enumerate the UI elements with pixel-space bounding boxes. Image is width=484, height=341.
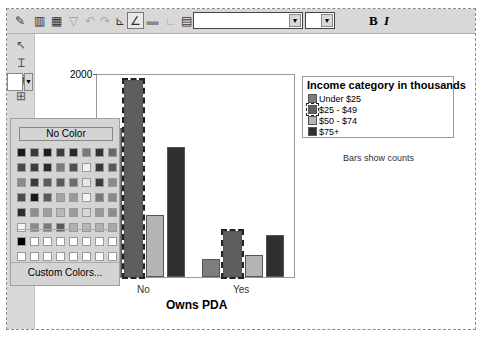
color-swatch[interactable] [56,193,65,202]
bar-no-75plus[interactable] [167,147,185,277]
color-swatch[interactable] [95,208,104,217]
color-swatch[interactable] [56,178,65,187]
custom-colors-button[interactable]: Custom Colors... [11,267,119,278]
color-swatch[interactable] [30,178,39,187]
pointer-icon[interactable]: ↖ [13,37,29,53]
y-tick-label: 2000 [70,69,92,80]
color-swatch[interactable] [95,163,104,172]
color-swatch[interactable] [69,237,78,246]
color-swatch[interactable] [17,237,26,246]
bar-yes-75plus[interactable] [266,235,284,277]
no-color-button[interactable]: No Color [19,127,113,141]
color-swatch[interactable] [56,223,65,232]
color-swatch[interactable] [95,178,104,187]
color-swatch[interactable] [69,148,78,157]
bar-yes-25-49[interactable] [223,231,242,277]
color-swatch[interactable] [43,208,52,217]
color-swatch[interactable] [82,148,91,157]
legend-item[interactable]: $50 - $74 [308,115,357,126]
bar-yes-under25[interactable] [202,259,220,277]
color-swatch[interactable] [82,252,91,261]
gridlines-icon[interactable]: ▬ [144,12,161,29]
fill-color-swatch[interactable] [7,73,23,91]
color-swatch[interactable] [30,252,39,261]
x-axis-title[interactable]: Owns PDA [166,298,227,312]
color-swatch[interactable] [56,252,65,261]
color-swatch[interactable] [82,163,91,172]
color-swatch[interactable] [30,223,39,232]
chart-properties-icon[interactable]: ✎ [11,12,28,29]
color-swatch[interactable] [43,148,52,157]
color-swatch[interactable] [82,178,91,187]
frame-icon[interactable]: ∟ [162,12,179,29]
color-swatch[interactable] [95,252,104,261]
fill-color-dropdown[interactable]: ▼ [24,73,33,91]
chart-gallery-icon[interactable]: ▦ [48,12,65,29]
color-swatch[interactable] [56,208,65,217]
color-swatch[interactable] [56,237,65,246]
color-swatch[interactable] [30,163,39,172]
color-swatch[interactable] [43,223,52,232]
color-swatch[interactable] [30,148,39,157]
color-swatch[interactable] [108,237,117,246]
color-swatch[interactable] [43,252,52,261]
funnel-icon[interactable]: ▽ [65,12,82,29]
color-swatch[interactable] [108,178,117,187]
italic-button[interactable]: I [384,13,389,29]
bar-yes-50-74[interactable] [245,255,263,277]
legend-item[interactable]: Under $25 [308,93,361,104]
color-swatch[interactable] [43,193,52,202]
color-swatch[interactable] [108,193,117,202]
color-swatch[interactable] [108,223,117,232]
color-swatch[interactable] [17,223,26,232]
axis-line-icon[interactable]: ∠ [127,12,144,29]
color-swatch[interactable] [43,178,52,187]
color-swatch[interactable] [69,208,78,217]
chevron-down-icon[interactable]: ▼ [321,14,333,27]
color-swatch[interactable] [108,148,117,157]
color-swatch[interactable] [17,178,26,187]
color-swatch[interactable] [82,223,91,232]
color-swatch[interactable] [69,252,78,261]
bar-no-25-49[interactable] [124,80,143,277]
color-swatch[interactable] [108,163,117,172]
text-cursor-icon[interactable]: Ɪ [13,54,29,70]
legend-title[interactable]: Income category in thousands [307,79,466,91]
legend-item[interactable]: $25 - $49 [308,104,357,115]
color-swatch[interactable] [82,193,91,202]
legend-item[interactable]: $75+ [308,126,339,137]
chevron-down-icon[interactable]: ▼ [289,14,301,27]
bar-chart-icon[interactable]: ▥ [31,12,48,29]
color-swatch[interactable] [30,193,39,202]
color-swatch[interactable] [56,163,65,172]
bold-button[interactable]: B [369,13,378,29]
color-swatch[interactable] [108,208,117,217]
color-swatch[interactable] [69,178,78,187]
color-swatch[interactable] [95,237,104,246]
color-swatch[interactable] [82,208,91,217]
color-swatch[interactable] [69,163,78,172]
color-swatch[interactable] [95,193,104,202]
color-swatch[interactable] [69,223,78,232]
color-swatch[interactable] [17,148,26,157]
color-swatch[interactable] [17,163,26,172]
color-swatch[interactable] [95,223,104,232]
color-swatch[interactable] [17,252,26,261]
font-size-select[interactable]: ▼ [305,12,335,29]
axis-icon[interactable]: ⊾ [111,12,128,29]
color-swatch[interactable] [30,208,39,217]
chart-annotation[interactable]: Bars show counts [343,153,414,163]
color-swatch[interactable] [95,148,104,157]
color-swatch[interactable] [56,148,65,157]
color-swatch[interactable] [82,237,91,246]
color-swatch[interactable] [30,237,39,246]
color-swatch[interactable] [69,193,78,202]
legend[interactable]: Income category in thousands Under $25 $… [302,76,454,138]
color-swatch[interactable] [43,163,52,172]
bar-no-50-74[interactable] [146,215,164,277]
color-swatch[interactable] [108,252,117,261]
color-swatch[interactable] [43,237,52,246]
font-name-select[interactable]: ▼ [193,12,303,29]
color-swatch[interactable] [17,208,26,217]
color-swatch[interactable] [17,193,26,202]
